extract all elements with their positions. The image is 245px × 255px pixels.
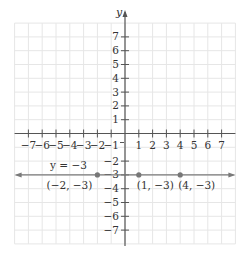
- left-arrow-icon: [15, 172, 22, 177]
- y-tick-label: 7: [112, 30, 119, 42]
- y-tick-label: 1: [112, 113, 119, 125]
- y-tick-label: 3: [112, 86, 119, 98]
- axes: [15, 10, 236, 246]
- x-tick-label: −1: [103, 139, 118, 151]
- y-tick-label: −5: [104, 196, 119, 208]
- y-axis-arrow-icon: [123, 10, 128, 17]
- y-tick-label: 6: [112, 44, 119, 56]
- x-tick-label: 1: [135, 139, 142, 151]
- y-tick-label: 4: [112, 72, 119, 84]
- y-tick-label: −4: [104, 182, 120, 194]
- y-axis-label: y: [115, 6, 123, 19]
- x-tick-label: 5: [191, 139, 198, 151]
- data-point: [178, 172, 183, 177]
- data-point: [136, 172, 141, 177]
- y-tick-label: −2: [104, 155, 119, 167]
- data-point: [95, 172, 100, 177]
- point-label: (4, −3): [178, 179, 215, 191]
- x-tick-label: 7: [218, 139, 225, 151]
- y-tick-label: −6: [104, 210, 120, 222]
- x-tick-label: 6: [204, 139, 211, 151]
- y-tick-label: 2: [112, 99, 119, 111]
- x-tick-label: 4: [177, 139, 184, 151]
- point-label: (1, −3): [137, 179, 174, 191]
- right-arrow-icon: [228, 172, 235, 177]
- equation-label: y = −3: [49, 159, 87, 171]
- x-tick-label: 3: [163, 139, 170, 151]
- y-tick-label: 5: [112, 58, 119, 70]
- point-label: (−2, −3): [47, 179, 93, 191]
- coordinate-plane: −7−6−5−4−3−2−112345677654321−2−3−4−5−6−7…: [0, 0, 245, 255]
- x-tick-label: 2: [149, 139, 156, 151]
- y-tick-label: −7: [104, 224, 119, 236]
